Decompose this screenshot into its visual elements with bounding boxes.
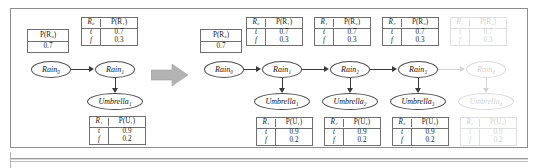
- edge-rain3-rain4-faded: [438, 69, 460, 70]
- edge-rain1-to-umbrella1: [115, 78, 116, 88]
- table-header-row: R₄ P(U₄): [461, 118, 516, 129]
- right-sensor-table-1: R₁ P(U₁) t 0.9 f 0.2: [256, 117, 313, 146]
- unroll-block-arrow-icon: [151, 63, 189, 87]
- edge-rain1-umbrella1: [282, 78, 283, 88]
- right-transition-table-2: R₁ P(R₂) t 0.7 f 0.3: [314, 17, 371, 46]
- right-prior-header: P(R₀): [201, 30, 241, 42]
- table-row: f 0.3: [451, 37, 506, 45]
- table-row: f 0.3: [315, 37, 370, 45]
- arrowhead-rain3-umbrella3: [415, 88, 421, 93]
- table-row: f 0.2: [257, 137, 312, 145]
- edge-rain4-umbrella4-faded: [486, 78, 487, 88]
- left-sensor-table: R₁ P(U₁) t 0.9 f 0.2: [89, 116, 146, 145]
- edge-rain0-to-rain1: [71, 69, 89, 70]
- table-header-row: R₃ P(R₄): [451, 18, 506, 29]
- right-sensor-table-4-faded: R₄ P(U₄) t 0.9 f 0.2: [460, 117, 517, 146]
- right-transition-table-4-faded: R₃ P(R₄) t 0.7 f 0.3: [450, 17, 507, 46]
- table-header-row: R₀ P(R₁): [82, 18, 137, 29]
- table-row: f 0.3: [247, 37, 302, 45]
- edge-rain2-rain3: [370, 69, 392, 70]
- arrowhead-rain3-rain4-faded: [460, 66, 465, 72]
- arrowhead-rain2-umbrella2: [347, 88, 353, 93]
- table-header-row: R₃ P(U₃): [393, 118, 448, 129]
- arrowhead-rain1-umbrella1: [112, 88, 118, 93]
- left-transition-table: R₀ P(R₁) t 0.7 f 0.3: [81, 17, 138, 46]
- node-umbrella-1: Umbrella₁: [254, 93, 310, 110]
- arrowhead-rain1-rain2: [324, 66, 329, 72]
- table-row: f 0.2: [90, 136, 145, 144]
- node-rain-3: Rain₃: [398, 61, 438, 78]
- left-prior-header: P(R₀): [28, 30, 68, 42]
- arrowhead-rain2-rain3: [392, 66, 397, 72]
- table-header-row: R₁ P(U₁): [90, 117, 145, 128]
- node-umbrella-3: Umbrella₃: [390, 93, 446, 110]
- page-rule-secondary: [10, 161, 528, 162]
- arrowhead-rain0-rain1-right: [256, 66, 261, 72]
- node-rain-4-faded: Rain₄: [466, 61, 506, 78]
- table-row: f 0.3: [383, 37, 438, 45]
- table-header-row: R₀ P(R₁): [247, 18, 302, 29]
- table-header-row: R₂ P(U₂): [325, 118, 380, 129]
- edge-rain1-rain2: [302, 69, 324, 70]
- right-prior-table: P(R₀) 0.7: [200, 29, 242, 53]
- node-umbrella-2: Umbrella₂: [322, 93, 378, 110]
- edge-rain3-umbrella3: [418, 78, 419, 88]
- node-rain-0: Rain₀: [204, 61, 244, 78]
- node-rain-1: Rain₁: [262, 61, 302, 78]
- edge-rain2-umbrella2: [350, 78, 351, 88]
- table-row: f 0.2: [393, 137, 448, 145]
- page-left-tick: [10, 152, 11, 168]
- right-transition-table-1: R₀ P(R₁) t 0.7 f 0.3: [246, 17, 303, 46]
- right-sensor-table-3: R₃ P(U₃) t 0.9 f 0.2: [392, 117, 449, 146]
- arrowhead-rain4-umbrella4-faded: [483, 88, 489, 93]
- node-rain-0-left: Rain₀: [31, 61, 71, 78]
- table-header-row: R₁ P(R₂): [315, 18, 370, 29]
- node-rain-1-left: Rain₁: [95, 61, 135, 78]
- page-rule-primary: [10, 158, 528, 160]
- left-prior-row: 0.7: [28, 42, 68, 52]
- table-row: f 0.2: [461, 137, 516, 145]
- node-umbrella-1-left: Umbrella₁: [87, 93, 143, 110]
- table-row: f 0.2: [325, 137, 380, 145]
- table-header-row: R₂ P(R₃): [383, 18, 438, 29]
- right-sensor-table-2: R₂ P(U₂) t 0.9 f 0.2: [324, 117, 381, 146]
- node-umbrella-4-faded: Umbrella₄: [458, 93, 514, 110]
- left-prior-table: P(R₀) 0.7: [27, 29, 69, 53]
- node-rain-2: Rain₂: [330, 61, 370, 78]
- arrowhead-rain1-umbrella1-down: [279, 88, 285, 93]
- table-row: f 0.3: [82, 37, 137, 45]
- right-transition-table-3: R₂ P(R₃) t 0.7 f 0.3: [382, 17, 439, 46]
- right-prior-row: 0.7: [201, 42, 241, 52]
- arrowhead-rain0-rain1: [89, 66, 94, 72]
- table-header-row: R₁ P(U₁): [257, 118, 312, 129]
- edge-rain0-rain1: [244, 69, 256, 70]
